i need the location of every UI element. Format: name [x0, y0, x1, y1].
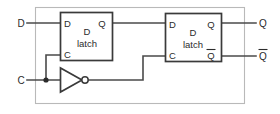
inverter-bubble-icon: [82, 77, 88, 83]
output-q-label: Q: [259, 18, 267, 29]
flip-flop-diagram: D C Q D latch D C Q Q D latch D C Q Q: [0, 0, 280, 114]
master-title-line1: D: [84, 26, 91, 37]
slave-pin-qbar-label: Q: [207, 50, 214, 61]
inverter-triangle-icon[interactable]: [61, 68, 83, 92]
input-d-label: D: [17, 18, 24, 29]
input-c-label: C: [17, 75, 24, 86]
master-pin-q-label: Q: [98, 18, 105, 29]
slave-pin-d-label: D: [169, 19, 176, 30]
output-q-bar-label: Q: [259, 51, 267, 62]
master-pin-c-label: C: [64, 49, 71, 60]
slave-title-line1: D: [190, 27, 197, 38]
master-title-line2: latch: [77, 38, 97, 49]
slave-pin-c-label: C: [169, 50, 176, 61]
junction-dot-c: [43, 77, 48, 82]
master-pin-d-label: D: [64, 18, 71, 29]
wire-c-to-master-c: [46, 55, 60, 80]
circuit-canvas: D C Q D latch D C Q Q D latch D C Q Q: [0, 0, 280, 114]
slave-pin-q-label: Q: [207, 19, 214, 30]
slave-title-line2: latch: [183, 39, 203, 50]
